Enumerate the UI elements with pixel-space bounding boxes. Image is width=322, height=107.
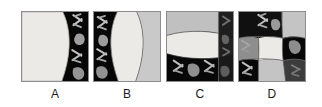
- figure-container: A: [0, 0, 322, 107]
- panel-d-bottom-right-mid-cell: [283, 59, 305, 81]
- panel-a-group: A: [21, 11, 89, 82]
- panel-a-image: [21, 11, 89, 82]
- panel-b-lens-region: [111, 12, 143, 81]
- panel-d-group: D: [238, 11, 306, 82]
- panel-a-pale-field: [22, 12, 69, 81]
- panel-b-label: B: [93, 87, 161, 101]
- blob-top-right: [271, 19, 280, 30]
- panel-d-bottom-center-light-cell: [258, 59, 285, 81]
- panel-c-group: C: [166, 11, 234, 82]
- panel-a-label: A: [21, 87, 89, 101]
- panel-b-group: B: [93, 11, 161, 82]
- panel-b-image: [93, 11, 161, 82]
- panel-c-label: C: [166, 87, 234, 101]
- panel-d-label: D: [238, 87, 306, 101]
- panel-d-image: [238, 11, 306, 82]
- panel-d-center-pale-cell: [258, 37, 283, 61]
- panel-c-image: [166, 11, 234, 82]
- panel-d-top-right-light-cell: [282, 12, 305, 38]
